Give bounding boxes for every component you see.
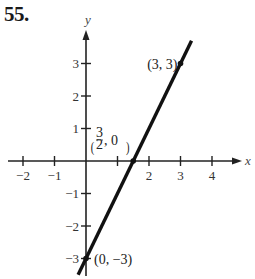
y-axis-label: y [83,12,91,27]
x-tick-label: −2 [16,168,30,183]
y-tick-label: −3 [65,251,79,266]
point-label-3-2-0: (32, 0) [91,125,130,155]
point-label-0-neg3: (0, −3) [94,252,133,268]
data-point [130,158,136,164]
data-point [83,256,89,262]
x-tick-label: 4 [209,168,216,183]
open-paren: ( [91,140,95,156]
label-rest: , 0 [104,133,118,148]
line-y-equals-2x-minus-3 [78,41,191,275]
y-tick-label: 3 [73,56,80,71]
y-tick-label: 1 [73,121,80,136]
point-label-3-3: (3, 3) [147,57,178,73]
fraction-denominator: 2 [96,137,103,152]
y-tick-label: −1 [65,186,79,201]
data-line [78,41,191,275]
x-tick-label: 2 [146,168,153,183]
x-tick-label: 3 [177,168,184,183]
x-axis-label: x [244,153,251,168]
y-tick-label: 2 [73,89,80,104]
close-paren: ) [126,140,130,156]
data-point [178,61,184,67]
x-axis-arrow-icon [232,158,242,165]
line-graph: xy −2−1234−3−2−1123 (3, 3)(0, −3)(32, 0) [0,0,255,279]
y-tick-label: −2 [65,219,79,234]
x-tick-label: −1 [48,168,62,183]
y-axis-arrow-icon [83,30,90,40]
